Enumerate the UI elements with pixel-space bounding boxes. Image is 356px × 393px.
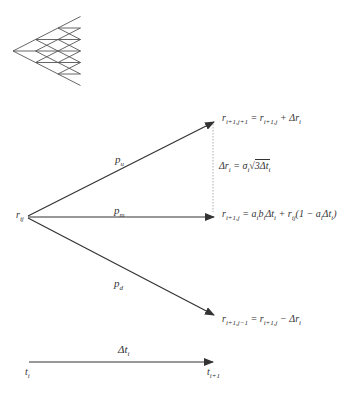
tree-edge	[58, 74, 81, 86]
tree-edge	[58, 17, 81, 29]
tree-edge	[13, 51, 36, 63]
branch-down-arrow	[28, 218, 214, 315]
label-t-i-plus-1: ti+1	[207, 366, 220, 380]
trinomial-tree-thumbnail	[13, 17, 81, 86]
label-p-d: pd	[114, 277, 123, 292]
tree-edge	[36, 28, 59, 40]
branch-up-arrow	[28, 122, 214, 216]
label-t-i: ti	[25, 366, 30, 380]
tree-edge	[36, 63, 59, 75]
equation-delta-r: Δri = σi√3Δti	[219, 160, 270, 174]
diagram-canvas	[0, 0, 356, 393]
equation-up-node: ri+1,j+1 = ri+1,j + Δri	[222, 112, 301, 126]
equation-down-node: ri+1,j−1 = ri+1,j − Δri	[222, 313, 301, 327]
label-delta-t: Δti	[118, 343, 129, 358]
label-p-u: pu	[115, 153, 124, 168]
label-p-m: pm	[114, 204, 125, 219]
tree-edge	[13, 40, 36, 52]
equation-middle-node: ri+1,j = aibiΔti + rij(1 − aiΔti)	[222, 208, 337, 222]
label-r-ij: rij	[16, 209, 24, 223]
